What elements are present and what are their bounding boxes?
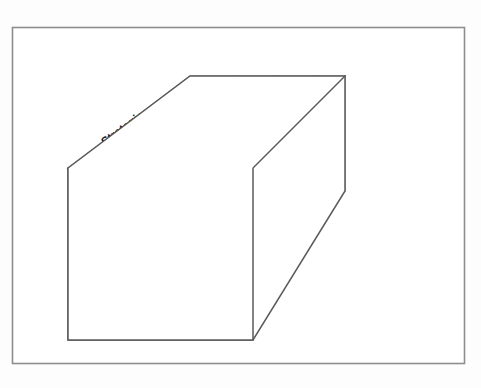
diagram-canvas: Strategic Operations Reporting Complianc…	[0, 0, 481, 388]
coso-erm-cube: Strategic Operations Reporting Complianc…	[0, 0, 481, 388]
